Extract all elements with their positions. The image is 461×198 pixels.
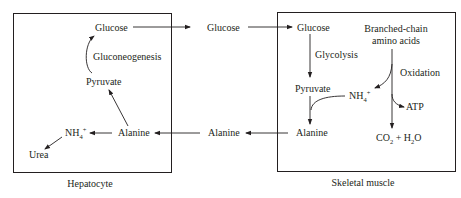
muscle-pyruvate-label: Pyruvate	[295, 83, 331, 95]
arrow-nh4-to-alanine	[311, 96, 345, 110]
liver-glucose-label: Glucose	[95, 22, 128, 34]
liver-nh4-label: NH4+	[65, 127, 86, 139]
liver-pyruvate-label: Pyruvate	[86, 76, 122, 88]
arrow-bcaa-to-atp	[392, 94, 404, 107]
blood-alanine-label: Alanine	[208, 127, 240, 139]
gluconeogenesis-label: Gluconeogenesis	[93, 51, 161, 63]
glycolysis-label: Glycolysis	[315, 49, 358, 61]
hepatocyte-caption: Hepatocyte	[67, 178, 113, 190]
skeletal-muscle-caption: Skeletal muscle	[331, 177, 394, 189]
arrow-alanine-to-pyruvate	[109, 90, 128, 126]
oxidation-label: Oxidation	[400, 67, 440, 79]
blood-glucose-label: Glucose	[207, 22, 240, 34]
muscle-glucose-label: Glucose	[297, 22, 330, 34]
liver-alanine-label: Alanine	[118, 127, 150, 139]
bcaa-label: Branched-chainamino acids	[364, 23, 427, 47]
atp-label: ATP	[406, 101, 424, 113]
muscle-alanine-label: Alanine	[296, 127, 328, 139]
urea-label: Urea	[29, 149, 48, 161]
arrow-nh4-to-urea	[45, 137, 62, 149]
co2-h2o-label: CO2 + H2O	[376, 132, 422, 144]
arrow-bcaa-to-nh4	[375, 64, 392, 88]
muscle-nh4-label: NH4+	[349, 90, 370, 102]
